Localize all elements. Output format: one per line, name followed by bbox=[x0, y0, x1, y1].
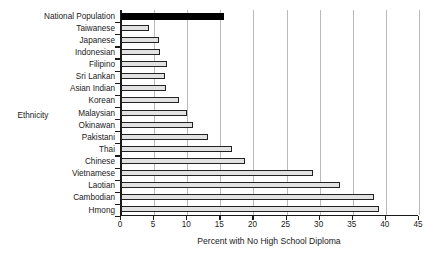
bar bbox=[121, 97, 179, 103]
bar bbox=[121, 170, 313, 176]
category-label: Chinese bbox=[10, 156, 118, 168]
bar bbox=[121, 61, 167, 67]
category-label: National Population bbox=[10, 10, 118, 22]
x-tick-label: 40 bbox=[370, 220, 400, 230]
y-tick-mark bbox=[115, 95, 120, 96]
x-tick-label: 10 bbox=[171, 220, 201, 230]
bar-row bbox=[121, 58, 418, 70]
x-tick-label: 20 bbox=[237, 220, 267, 230]
x-tick-label: 0 bbox=[105, 220, 135, 230]
bar bbox=[121, 25, 149, 31]
bar-row bbox=[121, 22, 418, 34]
category-label: Asian Indian bbox=[10, 83, 118, 95]
bar bbox=[121, 73, 165, 79]
bar-row bbox=[121, 119, 418, 131]
bar bbox=[121, 13, 224, 20]
y-tick-mark bbox=[115, 119, 120, 120]
bar bbox=[121, 194, 374, 200]
x-tick-label: 35 bbox=[337, 220, 367, 230]
bar-row bbox=[121, 155, 418, 167]
category-label: Hmong bbox=[10, 204, 118, 216]
y-tick-mark bbox=[115, 155, 120, 156]
x-tick-label: 25 bbox=[271, 220, 301, 230]
x-tick-label: 5 bbox=[138, 220, 168, 230]
bar-row bbox=[121, 131, 418, 143]
y-tick-mark bbox=[115, 46, 120, 47]
bar-row bbox=[121, 46, 418, 58]
category-label: Filipino bbox=[10, 59, 118, 71]
bar bbox=[121, 85, 166, 91]
category-label: Taiwanese bbox=[10, 22, 118, 34]
bar-row bbox=[121, 143, 418, 155]
category-label: Pakistani bbox=[10, 131, 118, 143]
bars-group bbox=[121, 10, 418, 215]
bar-row bbox=[121, 94, 418, 106]
x-tick-label: 30 bbox=[304, 220, 334, 230]
gridline bbox=[419, 10, 420, 215]
bar bbox=[121, 49, 160, 55]
bar-row bbox=[121, 10, 418, 22]
bar-row bbox=[121, 107, 418, 119]
category-label: Japanese bbox=[10, 34, 118, 46]
bar bbox=[121, 110, 187, 116]
y-tick-mark bbox=[115, 58, 120, 59]
y-tick-mark bbox=[115, 34, 120, 35]
bar-row bbox=[121, 70, 418, 82]
category-label: Thai bbox=[10, 143, 118, 155]
bar bbox=[121, 134, 208, 140]
bar-row bbox=[121, 191, 418, 203]
bar-chart: Ethnicity National PopulationTaiwaneseJa… bbox=[0, 0, 435, 259]
y-tick-mark bbox=[115, 131, 120, 132]
bar bbox=[121, 182, 340, 188]
y-tick-mark bbox=[115, 180, 120, 181]
bar bbox=[121, 122, 193, 128]
category-label: Vietnamese bbox=[10, 168, 118, 180]
bar-row bbox=[121, 179, 418, 191]
bar bbox=[121, 158, 245, 164]
bar bbox=[121, 146, 232, 152]
category-label: Laotian bbox=[10, 180, 118, 192]
category-label: Malaysian bbox=[10, 107, 118, 119]
category-label: Okinawan bbox=[10, 119, 118, 131]
y-tick-mark bbox=[115, 192, 120, 193]
y-tick-mark bbox=[115, 168, 120, 169]
y-tick-mark bbox=[115, 83, 120, 84]
y-tick-mark bbox=[115, 22, 120, 23]
bar bbox=[121, 37, 159, 43]
x-tick-label: 45 bbox=[403, 220, 433, 230]
bar-row bbox=[121, 34, 418, 46]
y-tick-mark bbox=[115, 71, 120, 72]
category-label: Korean bbox=[10, 95, 118, 107]
category-label-list: National PopulationTaiwaneseJapaneseIndo… bbox=[10, 10, 118, 216]
bar-row bbox=[121, 203, 418, 215]
category-label: Cambodian bbox=[10, 192, 118, 204]
y-tick-mark bbox=[115, 204, 120, 205]
y-tick-mark bbox=[115, 143, 120, 144]
bar bbox=[121, 206, 379, 212]
bar-row bbox=[121, 167, 418, 179]
x-axis-title: Percent with No High School Diploma bbox=[120, 236, 418, 247]
y-tick-mark bbox=[115, 216, 120, 217]
x-tick-label: 15 bbox=[204, 220, 234, 230]
category-label: Indonesian bbox=[10, 46, 118, 58]
plot-area bbox=[120, 10, 418, 216]
y-tick-mark bbox=[115, 107, 120, 108]
bar-row bbox=[121, 82, 418, 94]
category-label: Sri Lankan bbox=[10, 71, 118, 83]
